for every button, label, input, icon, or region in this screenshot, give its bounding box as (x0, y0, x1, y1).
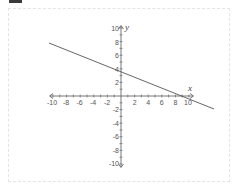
y-tick-label: -8 (113, 147, 119, 154)
y-tick-label: -10 (109, 160, 119, 167)
x-tick-label: -10 (47, 99, 57, 106)
y-tick-label: -6 (113, 133, 119, 140)
x-tick-label: -2 (104, 99, 110, 106)
y-tick-label: 2 (115, 79, 119, 86)
y-axis (119, 26, 124, 168)
y-tick-label: -2 (113, 106, 119, 113)
x-tick-label: -6 (76, 99, 82, 106)
y-tick-label: 10 (111, 25, 119, 32)
x-tick-label: 6 (160, 99, 164, 106)
y-tick-label: 4 (115, 66, 119, 73)
x-tick-label: 8 (173, 99, 177, 106)
x-tick-label: 2 (133, 99, 137, 106)
y-axis-label: y (124, 22, 129, 32)
x-axis-label: x (187, 83, 192, 93)
x-tick-label: -4 (90, 99, 96, 106)
x-axis (50, 94, 194, 99)
y-tick-label: -4 (113, 120, 119, 127)
y-tick-label: 8 (115, 39, 119, 46)
x-tick-label: 4 (146, 99, 150, 106)
y-tick-label: 6 (115, 52, 119, 59)
x-tick-label: -8 (63, 99, 69, 106)
x-tick-labels: -10 -8 -6 -4 -2 2 4 6 8 10 (47, 99, 192, 106)
coordinate-plane: -10 -8 -6 -4 -2 2 4 6 8 10 10 8 6 4 2 -2… (0, 0, 238, 184)
plotted-line (49, 43, 214, 109)
